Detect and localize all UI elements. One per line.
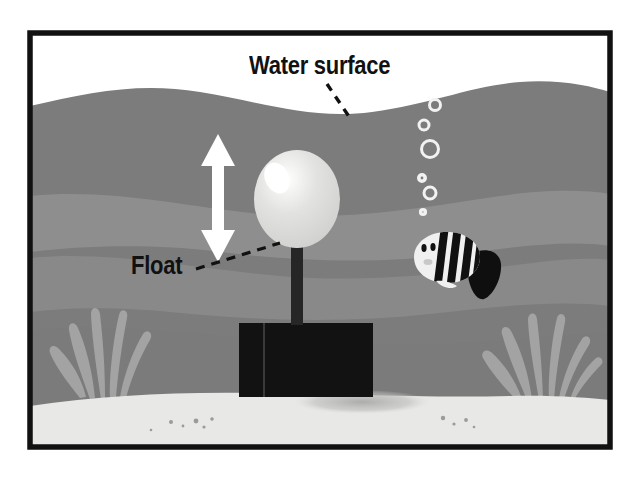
label-water-surface: Water surface bbox=[249, 51, 390, 80]
float-post bbox=[291, 243, 303, 325]
anchor-block bbox=[239, 323, 373, 397]
illustration-root: Water surface Float bbox=[0, 0, 637, 480]
label-float: Float bbox=[131, 251, 182, 280]
float-body bbox=[254, 150, 340, 248]
fish-cheek bbox=[424, 259, 433, 265]
scene-contents bbox=[30, 33, 610, 447]
